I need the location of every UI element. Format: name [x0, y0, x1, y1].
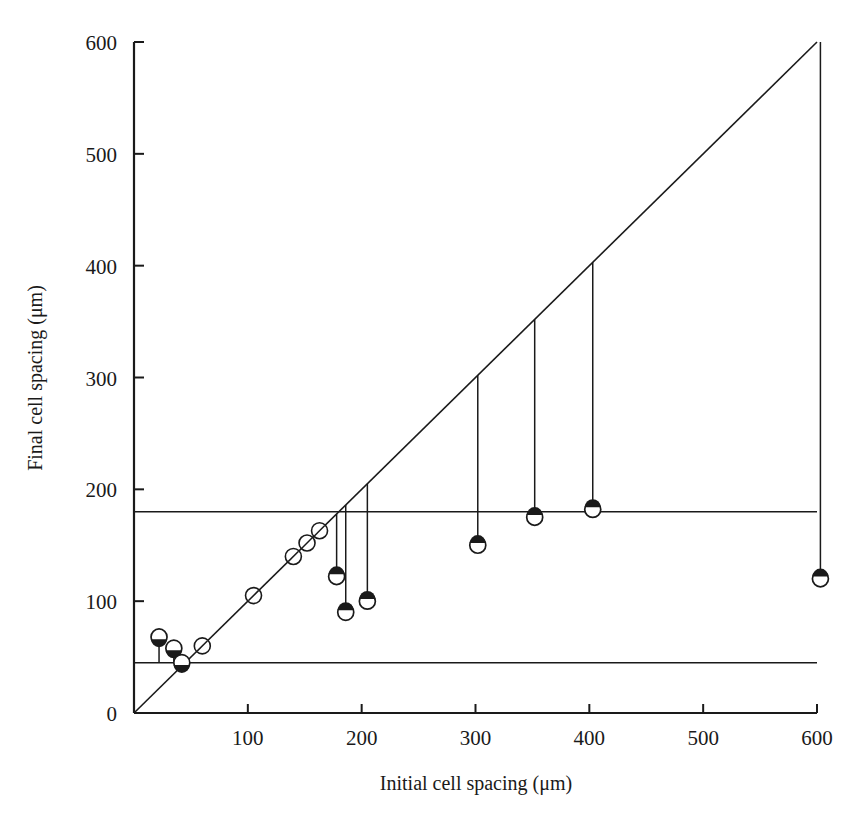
y-axis-tick-label: 0 [107, 702, 118, 726]
y-axis-tick-label: 600 [86, 31, 118, 55]
x-axis-tick-label: 100 [232, 726, 264, 750]
marker-capped-circle [174, 655, 190, 673]
chart-figure: 0100200300400500600100200300400500600 In… [0, 0, 860, 823]
marker-capped-circle [329, 566, 345, 584]
scatter-plot-canvas: 0100200300400500600100200300400500600 In… [0, 0, 860, 823]
x-axis-tick-label: 600 [801, 726, 833, 750]
y-axis-tick-label: 200 [86, 478, 118, 502]
marker-capped-circle [527, 507, 543, 525]
y-axis-tick-label: 100 [86, 590, 118, 614]
y-axis-title: Final cell spacing (μm) [24, 285, 47, 471]
marker-open-circle [312, 523, 328, 539]
marker-capped-circle [151, 629, 167, 647]
marker-capped-circle [812, 569, 828, 587]
marker-open-circle [246, 588, 262, 604]
x-axis-tick-label: 400 [574, 726, 606, 750]
marker-capped-circle [470, 535, 486, 553]
x-axis-tick-label: 300 [460, 726, 492, 750]
plot-background [0, 0, 860, 823]
y-axis-tick-label: 400 [86, 255, 118, 279]
marker-open-circle [194, 638, 210, 654]
marker-capped-circle [359, 591, 375, 609]
x-axis-tick-label: 500 [687, 726, 719, 750]
x-axis-title: Initial cell spacing (μm) [380, 772, 572, 795]
y-axis-tick-label: 300 [86, 367, 118, 391]
marker-capped-circle [585, 499, 601, 517]
marker-open-circle [299, 535, 315, 551]
x-axis-tick-label: 200 [346, 726, 378, 750]
y-axis-tick-label: 500 [86, 143, 118, 167]
marker-capped-circle [338, 602, 354, 620]
marker-open-circle [285, 548, 301, 564]
